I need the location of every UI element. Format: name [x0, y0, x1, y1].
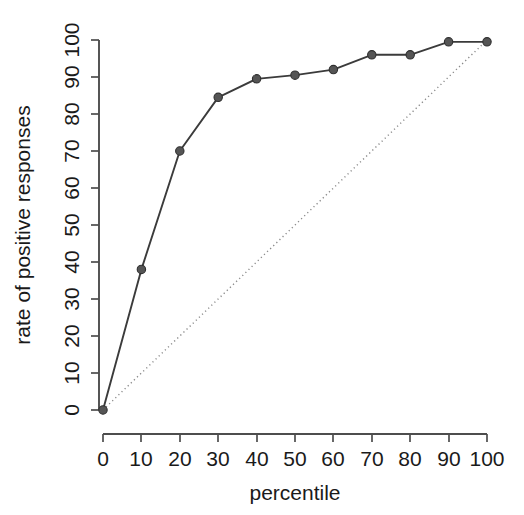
x-tick-label: 30 — [206, 447, 229, 470]
x-tick-label: 50 — [283, 447, 306, 470]
y-axis-tick-labels: 0 10 20 30 40 50 60 70 80 90 100 — [60, 22, 83, 415]
x-axis-tick-labels: 0 10 20 30 40 50 60 70 80 90 100 — [97, 447, 504, 470]
data-point — [214, 93, 222, 101]
y-axis-ticks — [91, 40, 99, 410]
x-tick-label: 70 — [360, 447, 383, 470]
y-tick-label: 20 — [60, 324, 83, 347]
y-tick-label: 50 — [60, 213, 83, 236]
x-tick-label: 60 — [321, 447, 344, 470]
data-point — [291, 71, 299, 79]
data-point — [252, 75, 260, 83]
y-tick-label: 10 — [60, 361, 83, 384]
data-point — [99, 406, 107, 414]
data-point — [368, 51, 376, 59]
y-tick-label: 100 — [60, 22, 83, 57]
y-tick-label: 60 — [60, 176, 83, 199]
y-tick-label: 0 — [60, 404, 83, 416]
lift-curve-plot: 0 10 20 30 40 50 60 70 80 90 100 — [0, 0, 524, 515]
x-tick-label: 10 — [129, 447, 152, 470]
data-point — [329, 65, 337, 73]
data-point — [176, 147, 184, 155]
data-point — [406, 51, 414, 59]
y-tick-label: 80 — [60, 102, 83, 125]
x-tick-label: 80 — [398, 447, 421, 470]
data-point — [137, 265, 145, 273]
x-tick-label: 20 — [168, 447, 191, 470]
y-axis-title: rate of positive responses — [11, 105, 34, 344]
lift-curve-line — [103, 42, 487, 410]
x-axis-title: percentile — [249, 481, 340, 504]
y-tick-label: 40 — [60, 250, 83, 273]
reference-diagonal-line — [103, 40, 487, 410]
x-tick-label: 100 — [469, 447, 504, 470]
x-tick-label: 0 — [97, 447, 109, 470]
lift-curve-points — [99, 38, 491, 415]
x-axis-ticks — [103, 434, 487, 442]
chart-figure: 0 10 20 30 40 50 60 70 80 90 100 — [0, 0, 524, 515]
x-tick-label: 90 — [437, 447, 460, 470]
data-point — [444, 38, 452, 46]
y-tick-label: 70 — [60, 139, 83, 162]
y-tick-label: 90 — [60, 65, 83, 88]
y-tick-label: 30 — [60, 287, 83, 310]
data-point — [483, 38, 491, 46]
x-tick-label: 40 — [245, 447, 268, 470]
